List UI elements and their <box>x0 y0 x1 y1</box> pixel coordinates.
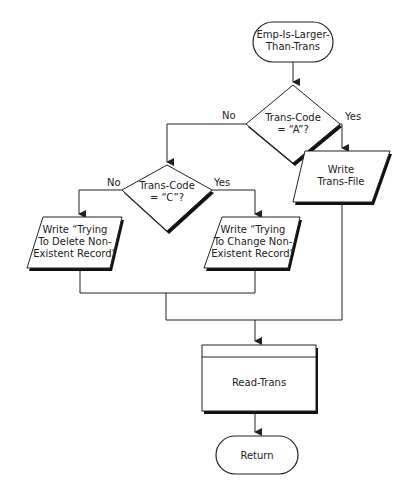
write-change-line2: To Change Non- <box>213 236 293 247</box>
decision-c-line2: = “C”? <box>150 192 184 203</box>
edge-label-a-yes: Yes <box>344 111 361 122</box>
write-trans-file-line1: Write <box>328 164 354 175</box>
edge-label-c-no: No <box>107 177 121 188</box>
read-trans-process: Read-Trans <box>202 345 318 414</box>
decision-c-line1: Trans-Code <box>138 180 195 191</box>
write-change-line3: Existent Record” <box>211 248 294 259</box>
write-delete-line3: Existent Record” <box>33 248 116 259</box>
write-delete-line2: To Delete Non- <box>37 236 112 247</box>
edge-a-no <box>167 124 246 162</box>
write-trans-file-line2: Trans-File <box>317 176 365 187</box>
decision-a-line1: Trans-Code <box>264 112 321 123</box>
read-trans-label: Read-Trans <box>232 377 286 388</box>
edge-merge-cbranch <box>80 268 255 293</box>
start-terminal: Emp-Is-Larger- Than-Trans <box>253 22 333 62</box>
return-label: Return <box>240 450 273 461</box>
decision-c: Trans-Code = “C”? <box>122 165 214 234</box>
flowchart: Emp-Is-Larger- Than-Trans Trans-Code = “… <box>0 0 410 489</box>
write-change-line1: Write “Trying <box>221 224 286 235</box>
edge-c-yes <box>212 190 255 214</box>
edge-label-a-no: No <box>222 110 236 121</box>
write-change-nonexistent: Write “Trying To Change Non- Existent Re… <box>204 217 302 271</box>
write-delete-line1: Write “Trying <box>43 224 108 235</box>
decision-a-line2: = “A”? <box>277 124 309 135</box>
edge-c-no <box>79 190 122 214</box>
end-terminal: Return <box>216 436 298 474</box>
start-label-line1: Emp-Is-Larger- <box>257 29 330 40</box>
start-label-line2: Than-Trans <box>265 41 320 52</box>
write-delete-nonexistent: Write “Trying To Delete Non- Existent Re… <box>27 217 124 271</box>
edge-label-c-yes: Yes <box>213 177 230 188</box>
write-trans-file: Write Trans-File <box>293 151 392 205</box>
